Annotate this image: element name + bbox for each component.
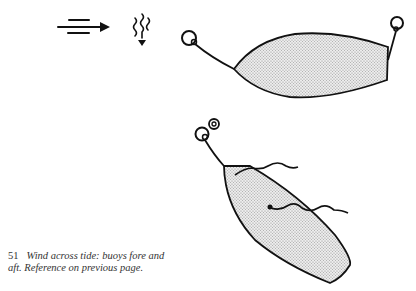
caption-line-1: Wind across tide: buoys fore and — [27, 250, 165, 261]
mooring-line — [195, 44, 234, 69]
figure-caption: 51Wind across tide: buoys fore and aft. … — [8, 250, 238, 274]
buoy-icon — [182, 31, 196, 45]
mooring-line — [388, 31, 396, 60]
buoy-icon — [209, 119, 219, 129]
wind-arrow-icon — [58, 20, 110, 33]
hull-shape — [224, 166, 350, 283]
figure-number: 51 — [8, 250, 19, 261]
hull-shape — [234, 33, 388, 97]
mooring-line — [205, 140, 224, 166]
boat-fore-aft — [182, 17, 403, 97]
diagram-canvas — [0, 0, 416, 291]
caption-line-2: aft. Reference on previous page. — [8, 262, 238, 274]
tide-wavy-arrow-icon — [134, 14, 150, 46]
